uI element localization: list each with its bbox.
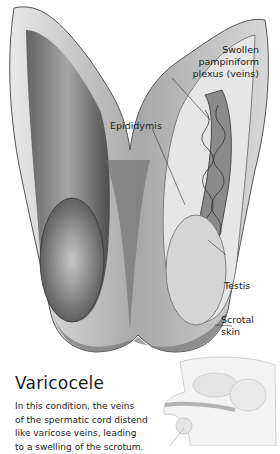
label-testis: Testis	[224, 280, 250, 292]
label-line: Scrotal	[221, 314, 254, 326]
label-line: skin	[221, 326, 254, 338]
label-line: plexus (veins)	[187, 68, 259, 80]
figure-title: Varicocele	[15, 373, 104, 393]
label-line: pampiniform	[187, 56, 259, 68]
label-scrotal-skin: Scrotal skin	[221, 314, 254, 338]
figure-description: In this condition, the veins of the sper…	[15, 400, 175, 454]
description-line: like varicose veins, leading	[15, 427, 175, 441]
description-line: In this condition, the veins	[15, 400, 175, 414]
label-line: Swollen	[187, 44, 259, 56]
description-line: to a swelling of the scrotum.	[15, 441, 175, 454]
sagittal-inset-drawing	[164, 357, 276, 446]
description-line: of the spermatic cord distend	[15, 414, 175, 428]
label-pampiniform-plexus: Swollen pampiniform plexus (veins)	[187, 44, 259, 80]
label-epididymis: Epididymis	[110, 120, 162, 132]
